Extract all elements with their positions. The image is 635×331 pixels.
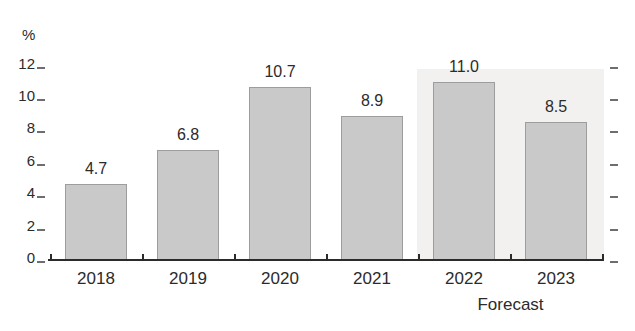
x-axis-label-2020: 2020 [240, 270, 320, 288]
y-axis-tick-dash-left [37, 229, 45, 231]
y-axis-tick-label: 12 [0, 56, 35, 72]
y-axis-tick-label: 0 [0, 250, 35, 266]
x-axis-label-2022: 2022 [424, 270, 504, 288]
bar-2019 [157, 150, 219, 260]
bar-value-label: 11.0 [424, 58, 504, 76]
x-axis-boundary-tick [418, 254, 420, 259]
bar-value-label: 10.7 [240, 63, 320, 81]
bar-value-label: 4.7 [56, 160, 136, 178]
y-axis-tick-label: 10 [0, 88, 35, 104]
y-axis-tick-label: 8 [0, 120, 35, 136]
bar-2022 [433, 82, 495, 260]
bar-2023 [525, 122, 587, 260]
bar-chart: % 0246810124.720186.8201910.720208.92021… [0, 0, 635, 331]
y-axis-tick-label: 6 [0, 153, 35, 169]
x-axis-line [48, 259, 604, 261]
y-axis-tick-dash-right [610, 196, 618, 198]
x-axis-label-2019: 2019 [148, 270, 228, 288]
y-axis-tick-dash-right [610, 261, 618, 263]
bar-value-label: 6.8 [148, 126, 228, 144]
bar-value-label: 8.5 [516, 98, 596, 116]
y-axis-tick-label: 4 [0, 185, 35, 201]
y-axis-tick-dash-right [610, 67, 618, 69]
y-axis-tick-dash-right [610, 229, 618, 231]
x-axis-label-2021: 2021 [332, 270, 412, 288]
y-axis-tick-dash-left [37, 196, 45, 198]
x-axis-label-2018: 2018 [56, 270, 136, 288]
y-axis-tick-dash-left [37, 67, 45, 69]
bar-2020 [249, 87, 311, 260]
y-axis-tick-dash-left [37, 261, 45, 263]
y-axis-tick-dash-right [610, 164, 618, 166]
x-axis-boundary-tick [234, 254, 236, 259]
x-axis-boundary-tick [326, 254, 328, 259]
y-axis-tick-label: 2 [0, 218, 35, 234]
x-axis-boundary-tick [142, 254, 144, 259]
y-axis-tick-dash-right [610, 131, 618, 133]
x-axis-boundary-tick [50, 254, 52, 259]
bar-2021 [341, 116, 403, 260]
x-axis-boundary-tick [510, 254, 512, 259]
bar-value-label: 8.9 [332, 92, 412, 110]
forecast-label: Forecast [417, 296, 604, 314]
y-axis-unit-label: % [22, 26, 35, 44]
x-axis-boundary-tick [602, 254, 604, 259]
bar-2018 [65, 184, 127, 260]
y-axis-tick-dash-right [610, 99, 618, 101]
y-axis-tick-dash-left [37, 164, 45, 166]
x-axis-label-2023: 2023 [516, 270, 596, 288]
y-axis-tick-dash-left [37, 99, 45, 101]
y-axis-tick-dash-left [37, 131, 45, 133]
